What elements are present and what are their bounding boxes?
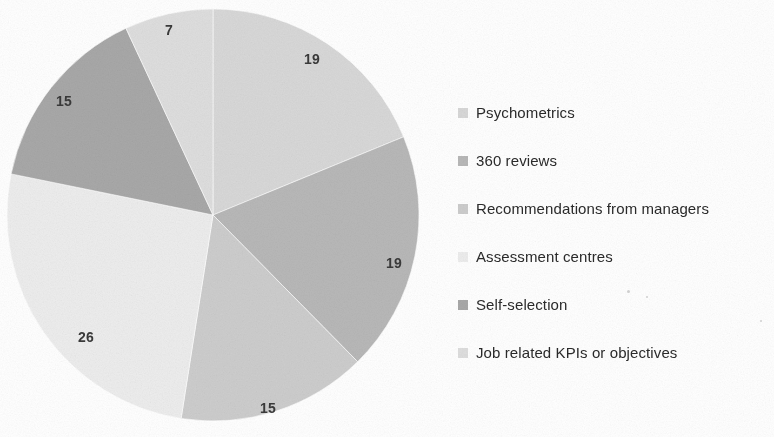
legend-item[interactable]: 360 reviews: [458, 136, 758, 184]
pie-slice-data-label: 15: [260, 400, 276, 416]
legend-item[interactable]: Psychometrics: [458, 88, 758, 136]
pie-slice[interactable]: [7, 174, 213, 419]
chart-legend: Psychometrics360 reviewsRecommendations …: [458, 88, 758, 376]
legend-item-label: Assessment centres: [476, 248, 613, 265]
pie-slice-data-label: 19: [386, 255, 402, 271]
legend-swatch-icon: [458, 108, 468, 118]
legend-item[interactable]: Job related KPIs or objectives: [458, 328, 758, 376]
legend-item-label: Job related KPIs or objectives: [476, 344, 677, 361]
legend-swatch-icon: [458, 204, 468, 214]
legend-item-label: Recommendations from managers: [476, 200, 709, 217]
pie-chart-figure: 19191526157 Psychometrics360 reviewsReco…: [0, 0, 774, 437]
pie-plot-area: 19191526157: [0, 0, 430, 437]
legend-item-label: 360 reviews: [476, 152, 557, 169]
pie-slice-data-label: 15: [56, 93, 72, 109]
legend-item[interactable]: Recommendations from managers: [458, 184, 758, 232]
legend-swatch-icon: [458, 348, 468, 358]
pie-slice-data-label: 19: [304, 51, 320, 67]
pie-slice-data-label: 26: [78, 329, 94, 345]
legend-swatch-icon: [458, 252, 468, 262]
legend-swatch-icon: [458, 300, 468, 310]
pie-svg: [0, 0, 430, 437]
legend-swatch-icon: [458, 156, 468, 166]
legend-item-label: Psychometrics: [476, 104, 575, 121]
legend-item-label: Self-selection: [476, 296, 567, 313]
legend-item[interactable]: Self-selection: [458, 280, 758, 328]
scan-artifact-speck: [760, 320, 762, 322]
legend-item[interactable]: Assessment centres: [458, 232, 758, 280]
pie-slices-group: [7, 9, 419, 421]
pie-slice-data-label: 7: [165, 22, 173, 38]
